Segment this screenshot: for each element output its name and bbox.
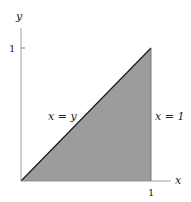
- y-tick-label: 1: [9, 43, 15, 54]
- x-axis-label: x: [175, 174, 182, 187]
- y-axis-label: y: [15, 10, 23, 23]
- label-x-equals-1: x = 1: [155, 110, 184, 123]
- x-tick-label: 1: [148, 187, 154, 198]
- region-diagram: y x 1 1 x = y x = 1: [0, 0, 191, 202]
- label-x-equals-y: x = y: [48, 110, 77, 123]
